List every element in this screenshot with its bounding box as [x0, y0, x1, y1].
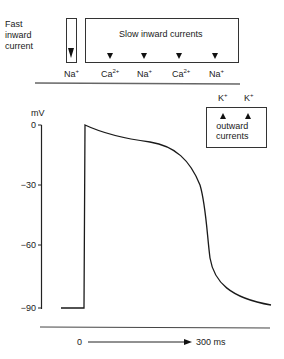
- action-potential-curve: [61, 125, 271, 308]
- arrow-head-icon: [184, 339, 192, 345]
- top-divider: [35, 83, 240, 84]
- action-potential-plot: [0, 0, 284, 359]
- bottom-divider: [40, 327, 270, 328]
